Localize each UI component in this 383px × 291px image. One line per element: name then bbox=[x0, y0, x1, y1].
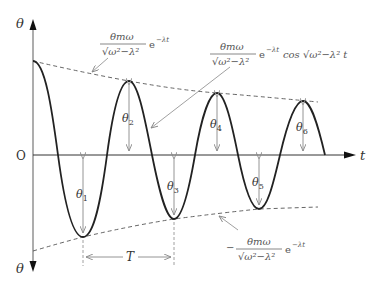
svg-text:√ω²−λ²: √ω²−λ² bbox=[102, 46, 139, 57]
svg-text:√ω²−λ²: √ω²−λ² bbox=[238, 251, 275, 262]
period-label: T bbox=[126, 250, 135, 264]
origin-label: O bbox=[16, 149, 26, 163]
lower-envelope-pointer bbox=[219, 216, 238, 230]
y-axis-label-top: θ bbox=[16, 16, 24, 31]
svg-text:e: e bbox=[259, 49, 265, 60]
svg-text:cos √ω²−λ² t: cos √ω²−λ² t bbox=[283, 49, 348, 60]
theta4-label: θ4 bbox=[210, 118, 222, 133]
upper-envelope-formula: θmω √ω²−λ² e −λt bbox=[100, 31, 169, 57]
svg-text:−: − bbox=[226, 242, 234, 253]
svg-text:θmω: θmω bbox=[247, 236, 271, 247]
theta3-label: θ3 bbox=[167, 180, 179, 195]
curve-pointer bbox=[151, 67, 230, 128]
upper-envelope bbox=[33, 61, 318, 102]
svg-text:−λt: −λt bbox=[266, 46, 279, 54]
svg-text:√ω²−λ²: √ω²−λ² bbox=[212, 56, 249, 67]
theta6-label: θ6 bbox=[296, 121, 308, 136]
y-axis bbox=[30, 19, 37, 272]
y-axis-down-arrow-icon bbox=[30, 261, 37, 272]
y-axis-label-bottom: θ bbox=[16, 261, 24, 276]
upper-envelope-pointer bbox=[92, 58, 108, 72]
theta5-label: θ5 bbox=[252, 176, 264, 191]
lower-envelope-formula: − θmω √ω²−λ² e −λt bbox=[226, 236, 305, 262]
svg-text:e: e bbox=[149, 39, 155, 50]
svg-text:−λt: −λt bbox=[292, 241, 305, 249]
curve-formula: θmω √ω²−λ² e −λt cos √ω²−λ² t bbox=[210, 41, 348, 67]
x-axis-arrow-icon bbox=[344, 152, 356, 159]
svg-text:e: e bbox=[285, 244, 291, 255]
period-marker: T bbox=[83, 222, 174, 266]
theta1-label: θ1 bbox=[76, 188, 88, 203]
damped-oscillation-curve bbox=[33, 61, 325, 237]
damped-oscillation-diagram: θ θ t O θ1 θ2 θ3 θ4 θ5 θ6 T θmω √ω²−λ² e bbox=[0, 0, 383, 291]
svg-text:θmω: θmω bbox=[220, 41, 244, 52]
lower-envelope bbox=[33, 207, 318, 251]
svg-text:θmω: θmω bbox=[110, 31, 134, 42]
svg-text:−λt: −λt bbox=[156, 36, 169, 44]
x-axis-label: t bbox=[360, 148, 366, 163]
theta2-label: θ2 bbox=[122, 112, 134, 127]
y-axis-up-arrow-icon bbox=[30, 19, 37, 30]
